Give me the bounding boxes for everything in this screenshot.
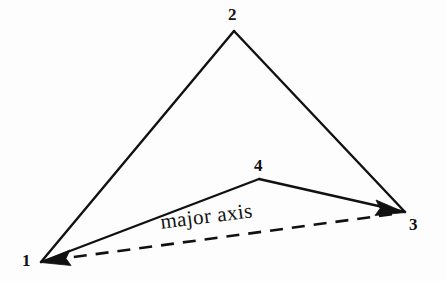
vertex-label-1: 1 xyxy=(22,252,31,269)
figure-canvas: 1 2 3 4 major axis xyxy=(0,0,446,281)
geometry-diagram xyxy=(0,0,446,281)
edge-2-3 xyxy=(234,31,405,212)
vertex-label-2: 2 xyxy=(228,6,237,23)
solid-edges-group xyxy=(41,31,405,262)
vertex-label-4: 4 xyxy=(254,157,263,174)
vertex-label-3: 3 xyxy=(409,216,418,233)
